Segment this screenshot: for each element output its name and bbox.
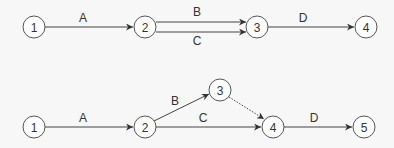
- node-2: 2: [134, 116, 156, 138]
- svg-text:1: 1: [31, 121, 38, 135]
- diagram-top: A B C D 1 2 3 4: [23, 5, 377, 48]
- svg-text:4: 4: [363, 21, 370, 35]
- node-5: 5: [353, 116, 375, 138]
- svg-text:3: 3: [217, 84, 224, 98]
- diagram-bottom: A B C D 1 2 3 4: [23, 79, 375, 138]
- svg-text:3: 3: [254, 21, 261, 35]
- svg-text:4: 4: [270, 121, 277, 135]
- edge-label-a: A: [79, 11, 87, 25]
- edge-dummy: [229, 97, 264, 119]
- edge-label-a: A: [79, 111, 87, 125]
- edge-label-b: B: [193, 5, 201, 19]
- node-2: 2: [134, 16, 156, 38]
- edge-label-d: D: [310, 111, 319, 125]
- node-1: 1: [23, 16, 45, 38]
- node-3: 3: [209, 79, 231, 101]
- activity-network-diagrams: A B C D 1 2 3 4: [0, 0, 394, 148]
- node-4: 4: [262, 116, 284, 138]
- svg-text:2: 2: [142, 121, 149, 135]
- edge-label-b: B: [171, 94, 179, 108]
- node-3: 3: [246, 16, 268, 38]
- svg-text:5: 5: [361, 121, 368, 135]
- edge-label-c: C: [193, 34, 202, 48]
- node-4: 4: [355, 16, 377, 38]
- svg-text:2: 2: [142, 21, 149, 35]
- svg-text:1: 1: [31, 21, 38, 35]
- edge-label-c: C: [199, 111, 208, 125]
- edge-label-d: D: [299, 11, 308, 25]
- node-1: 1: [23, 116, 45, 138]
